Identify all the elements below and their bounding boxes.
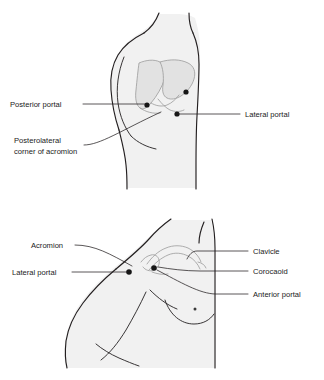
anterior-body-silhouette: [64, 220, 214, 368]
posterior-portal-marker[interactable]: [144, 102, 149, 107]
label-posterolateral-corner-line2: corner of acromion: [14, 147, 77, 156]
label-clavicle: Clavicle: [253, 247, 280, 256]
label-acromion: Acromion: [31, 241, 63, 250]
label-posterior-portal: Posterior portal: [10, 100, 62, 109]
label-posterolateral-corner-line1: Posterolateral: [14, 136, 61, 145]
figure-root: Posterior portal Posterolateral corner o…: [0, 0, 324, 380]
label-lateral-portal-posterior: Lateral portal: [245, 110, 290, 119]
anatomy-figure: Posterior portal Posterolateral corner o…: [0, 0, 324, 380]
accessory-portal-marker[interactable]: [183, 89, 188, 94]
nipple-marker: [194, 308, 197, 311]
label-anterior-portal: Anterior portal: [253, 290, 301, 299]
posterior-body-silhouette: [112, 14, 200, 188]
anterior-portal-marker[interactable]: [151, 265, 157, 271]
label-lateral-portal-anterior: Lateral portal: [12, 268, 57, 277]
panel-posterior-view: Posterior portal Posterolateral corner o…: [10, 13, 290, 189]
label-coracoid: Corocaoid: [253, 267, 288, 276]
panel-anterior-view: Acromion Lateral portal Clavicle Corocao…: [12, 219, 301, 368]
